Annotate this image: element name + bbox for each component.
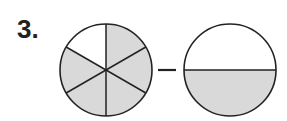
fraction-subtraction-figure xyxy=(0,0,287,121)
right-fraction-circle xyxy=(184,24,276,116)
left-fraction-circle xyxy=(60,24,152,116)
